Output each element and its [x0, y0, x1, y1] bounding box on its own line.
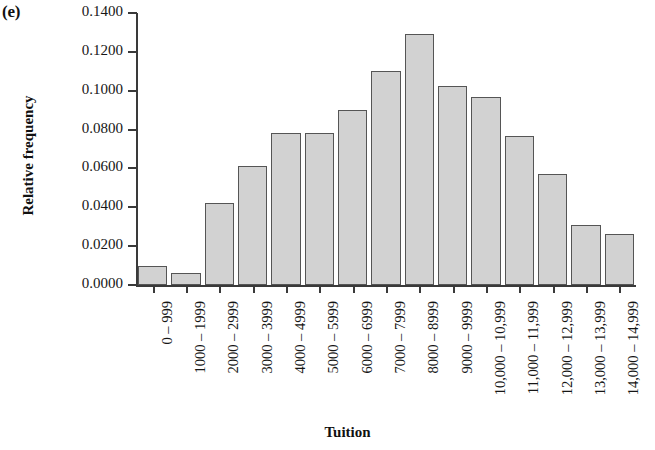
y-axis-title: Relative frequency [20, 66, 37, 246]
x-axis-category-label: 0 – 999 [159, 301, 176, 345]
histogram-bar [205, 203, 234, 285]
x-axis-title-row: Tuition [0, 424, 655, 441]
y-axis-tick [128, 167, 137, 169]
histogram-figure: (e) Relative frequency 0.00000.02000.040… [0, 0, 655, 450]
histogram-bar [538, 174, 567, 285]
x-axis-tick [619, 285, 621, 293]
plot-area: 0.00000.02000.04000.06000.08000.10000.12… [136, 13, 636, 285]
x-axis-category-label: 11,000 – 11,999 [525, 301, 542, 394]
y-axis-tick [128, 90, 137, 92]
x-axis-tick [453, 285, 455, 293]
histogram-bar [171, 273, 200, 285]
y-axis-tick-label: 0.0200 [82, 236, 123, 253]
y-axis-tick-label: 0.0600 [82, 158, 123, 175]
histogram-bar [605, 234, 634, 285]
x-axis-tick [153, 285, 155, 293]
x-axis-category-label: 6000 – 6999 [359, 301, 376, 374]
x-axis-tick [219, 285, 221, 293]
x-axis-tick [253, 285, 255, 293]
x-axis-tick [186, 285, 188, 293]
y-axis-tick [128, 51, 137, 53]
x-axis-category-label: 1000 – 1999 [192, 301, 209, 374]
y-axis-tick-label: 0.0800 [82, 120, 123, 137]
x-axis-category-label: 3000 – 3999 [259, 301, 276, 374]
histogram-bar [305, 133, 334, 285]
x-axis-tick [419, 285, 421, 293]
y-axis-tick-label: 0.0000 [82, 275, 123, 292]
x-axis-category-label: 10,000 – 10,999 [492, 301, 509, 395]
y-axis-tick [128, 284, 137, 286]
histogram-bar [505, 136, 534, 285]
panel-label: (e) [2, 2, 20, 22]
y-axis-tick [128, 12, 137, 14]
y-axis-tick [128, 129, 137, 131]
x-axis-category-label: 8000 – 8999 [425, 301, 442, 374]
y-axis-tick [128, 245, 137, 247]
y-axis-tick-label: 0.0400 [82, 197, 123, 214]
histogram-bar [238, 166, 267, 285]
y-axis-tick-label: 0.1200 [82, 42, 123, 59]
x-axis-tick [386, 285, 388, 293]
x-axis-category-label: 4000 – 4999 [292, 301, 309, 374]
x-axis-category-label: 2000 – 2999 [225, 301, 242, 374]
histogram-bar [571, 225, 600, 285]
x-axis-category-label: 13,000 – 13,999 [592, 301, 609, 395]
x-axis-category-label: 14,000 – 14,999 [625, 301, 642, 395]
x-axis-tick [286, 285, 288, 293]
x-axis-tick [519, 285, 521, 293]
x-axis-category-label: 12,000 – 12,999 [559, 301, 576, 395]
x-axis-category-label: 9000 – 9999 [459, 301, 476, 374]
histogram-bar [471, 97, 500, 285]
histogram-bar [405, 34, 434, 285]
x-axis-tick [353, 285, 355, 293]
x-axis-title: Tuition [324, 424, 370, 441]
x-axis-tick [486, 285, 488, 293]
x-axis-category-label: 5000 – 5999 [325, 301, 342, 374]
x-axis-category-label: 7000 – 7999 [392, 301, 409, 374]
x-axis-tick [586, 285, 588, 293]
y-axis-tick-label: 0.1000 [82, 81, 123, 98]
x-axis-tick [319, 285, 321, 293]
histogram-bar [271, 133, 300, 285]
y-axis-tick [128, 206, 137, 208]
y-axis-tick-label: 0.1400 [82, 3, 123, 20]
histogram-bar [338, 110, 367, 285]
histogram-bar [371, 71, 400, 285]
histogram-bar [438, 86, 467, 285]
x-axis-tick [553, 285, 555, 293]
histogram-bar [138, 266, 167, 285]
